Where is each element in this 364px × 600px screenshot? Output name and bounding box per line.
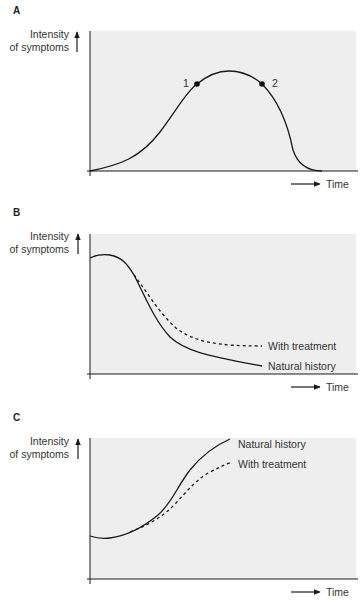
y-axis-label-line2: of symptoms	[9, 41, 69, 53]
y-axis-label-line1: Intensity	[30, 230, 70, 242]
natural-history-label: Natural history	[268, 360, 336, 372]
y-axis-label-line2: of symptoms	[9, 448, 69, 460]
panel-label: A	[13, 5, 20, 16]
x-axis-label: Time	[326, 178, 349, 190]
x-axis-label: Time	[326, 586, 349, 598]
panel-label: C	[13, 412, 20, 423]
point-1-marker	[194, 81, 200, 87]
point-2-marker	[259, 81, 265, 87]
plot-area	[90, 438, 356, 579]
y-axis-label-line1: Intensity	[30, 28, 70, 40]
panel-b: B Intensity of symptoms Time With treatm…	[9, 207, 358, 393]
figure: A Intensity of symptoms Time 1 2 B Inten…	[0, 0, 364, 600]
x-axis-label: Time	[326, 381, 349, 393]
point-1-label: 1	[183, 77, 189, 89]
with-treatment-label: With treatment	[238, 458, 306, 470]
panel-c: C Intensity of symptoms Time Natural his…	[9, 412, 358, 598]
point-2-label: 2	[272, 77, 278, 89]
plot-area	[90, 234, 356, 374]
with-treatment-label: With treatment	[268, 340, 336, 352]
natural-history-label: Natural history	[238, 438, 306, 450]
y-axis-label-line2: of symptoms	[9, 243, 69, 255]
panel-a: A Intensity of symptoms Time 1 2	[9, 5, 358, 190]
y-axis-label-line1: Intensity	[30, 435, 70, 447]
panel-label: B	[13, 207, 20, 218]
plot-area	[90, 31, 356, 171]
